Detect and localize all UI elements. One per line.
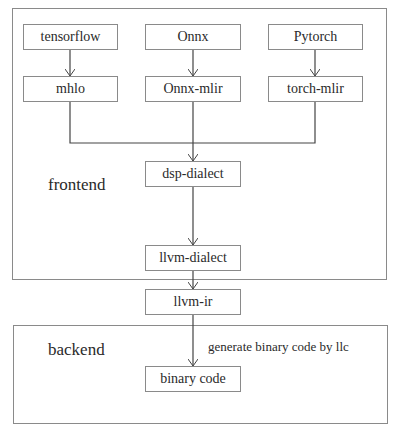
- node-torch-mlir: torch-mlir: [268, 76, 363, 102]
- node-binary-code: binary code: [145, 366, 241, 392]
- node-onnx-mlir: Onnx-mlir: [145, 76, 241, 102]
- node-mhlo: mhlo: [23, 76, 118, 102]
- node-dsp-dialect: dsp-dialect: [145, 161, 241, 187]
- node-llvm-ir: llvm-ir: [145, 289, 241, 315]
- node-tensorflow: tensorflow: [23, 24, 118, 50]
- node-onnx: Onnx: [145, 24, 241, 50]
- node-llvm-dialect: llvm-dialect: [145, 245, 241, 271]
- node-pytorch: Pytorch: [268, 24, 363, 50]
- llc-edge-label: generate binary code by llc: [208, 339, 349, 355]
